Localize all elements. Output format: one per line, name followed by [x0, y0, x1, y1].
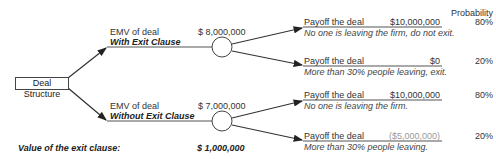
payoff-value: $10,000,000 [360, 90, 440, 100]
emv-value: $ 7,000,000 [198, 101, 246, 111]
root-node-deal-structure: Deal Structure [15, 77, 69, 90]
outcome-description: More than 30% people leaving. [304, 142, 428, 152]
emv-value: $ 8,000,000 [198, 27, 246, 37]
payoff-label: Payoff the deal [304, 56, 364, 66]
payoff-label: Payoff the deal [304, 17, 364, 27]
payoff-value: $0 [360, 56, 440, 66]
emv-label: EMV of deal [110, 27, 159, 37]
payoff-value: $10,000,000 [360, 17, 440, 27]
summary-label: Value of the exit clause: [18, 143, 120, 153]
payoff-value-negative: ($5,000,000) [360, 131, 440, 141]
outcome-description: More than 30% people leaving, exit. [304, 67, 447, 77]
probability-value: 80% [445, 90, 493, 100]
probability-value: 20% [445, 56, 493, 66]
option-label: With Exit Clause [110, 37, 180, 47]
outcome-description: No one is leaving the firm, do not exit. [304, 28, 455, 38]
option-label: Without Exit Clause [110, 111, 194, 121]
outcome-description: No one is leaving the firm. [304, 101, 408, 111]
probability-value: 20% [445, 131, 493, 141]
probability-value: 80% [445, 17, 493, 27]
summary-value: $ 1,000,000 [197, 143, 245, 153]
emv-label: EMV of deal [110, 101, 159, 111]
payoff-label: Payoff the deal [304, 131, 364, 141]
payoff-label: Payoff the deal [304, 90, 364, 100]
